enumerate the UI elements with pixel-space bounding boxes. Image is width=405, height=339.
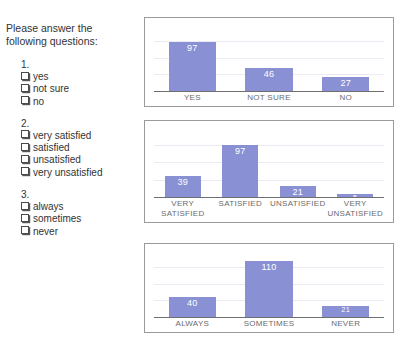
bar[interactable]: 21	[322, 306, 370, 317]
option-2-1[interactable]: very satisfied	[21, 130, 134, 142]
bar[interactable]: 27	[322, 77, 370, 91]
option-2-2[interactable]: satisfied	[21, 142, 134, 154]
empty-checkbox-icon[interactable]	[21, 72, 29, 80]
option-2-3[interactable]: unsatisfied	[21, 154, 134, 166]
bar-slot: 39	[154, 127, 212, 197]
question-number-1: 1.	[21, 59, 134, 71]
option-1-1[interactable]: yes	[21, 71, 134, 83]
empty-checkbox-icon[interactable]	[21, 167, 29, 175]
chart-bars: 3997215	[154, 127, 384, 197]
option-1-3[interactable]: no	[21, 96, 134, 108]
tick-label: SOMETIMES	[231, 319, 308, 329]
tick-label: VERY SATISFIED	[154, 199, 212, 218]
bar-slot: 46	[231, 24, 308, 91]
bar[interactable]: 110	[245, 261, 293, 317]
empty-checkbox-icon[interactable]	[21, 214, 29, 222]
option-1-2[interactable]: not sure	[21, 83, 134, 95]
bar-slot: 27	[307, 24, 384, 91]
bar-value-label: 21	[341, 306, 350, 314]
bar-value-label: 97	[187, 42, 197, 54]
option-label: not sure	[33, 83, 69, 95]
tick-label: SATISFIED	[212, 199, 270, 218]
option-label: no	[33, 96, 44, 108]
bar-slot: 5	[327, 127, 385, 197]
tick-label: VERY UNSATISFIED	[327, 199, 385, 218]
chart-bars: 974627	[154, 24, 384, 91]
option-label: yes	[33, 71, 49, 83]
option-label: always	[33, 201, 64, 213]
empty-checkbox-icon[interactable]	[21, 96, 29, 104]
bar[interactable]: 97	[169, 42, 217, 91]
tick-label: NO	[307, 93, 384, 103]
tick-label: ALWAYS	[154, 319, 231, 329]
bar-slot: 97	[154, 24, 231, 91]
bar-value-label: 27	[340, 77, 350, 89]
empty-checkbox-icon[interactable]	[21, 155, 29, 163]
empty-checkbox-icon[interactable]	[21, 143, 29, 151]
bar[interactable]: 40	[169, 297, 217, 317]
chart-axis-line	[154, 317, 384, 318]
tick-label: NOT SURE	[231, 93, 308, 103]
option-label: never	[33, 226, 58, 238]
tick-label: UNSATISFIED	[269, 199, 327, 218]
questionnaire-panel: Please answer the following questions: 1…	[6, 22, 134, 248]
chart-tick-labels: VERY SATISFIEDSATISFIEDUNSATISFIEDVERY U…	[154, 199, 384, 218]
question-number-3: 3.	[21, 189, 134, 201]
question-block-2: 2. very satisfied satisfied unsatisfied …	[6, 118, 134, 179]
option-label: unsatisfied	[33, 154, 81, 166]
option-3-2[interactable]: sometimes	[21, 213, 134, 225]
tick-label: YES	[154, 93, 231, 103]
chart-plot-3: 4011021ALWAYSSOMETIMESNEVER	[154, 250, 384, 328]
bar-value-label: 40	[187, 297, 197, 309]
bar-value-label: 21	[293, 186, 303, 198]
bar[interactable]: 21	[280, 186, 316, 197]
option-label: very satisfied	[33, 130, 91, 142]
bar-value-label: 97	[235, 145, 245, 157]
bar-slot: 97	[212, 127, 270, 197]
bar-slot: 21	[307, 250, 384, 317]
bar[interactable]: 46	[245, 68, 293, 91]
chart-panel-2: 3997215VERY SATISFIEDSATISFIEDUNSATISFIE…	[144, 120, 394, 223]
bar-slot: 21	[269, 127, 327, 197]
chart-axis-line	[154, 197, 384, 198]
bar[interactable]: 97	[222, 145, 258, 197]
chart-panel-1: 974627YESNOT SURENO	[144, 17, 394, 107]
option-3-3[interactable]: never	[21, 226, 134, 238]
question-block-1: 1. yes not sure no	[6, 59, 134, 108]
option-label: satisfied	[33, 142, 70, 154]
option-2-4[interactable]: very unsatisfied	[21, 167, 134, 179]
bar-slot: 40	[154, 250, 231, 317]
bar-value-label: 46	[264, 68, 274, 80]
bar-slot: 110	[231, 250, 308, 317]
option-label: very unsatisfied	[33, 167, 102, 179]
bar-value-label: 39	[178, 176, 188, 188]
questionnaire-intro: Please answer the following questions:	[6, 22, 134, 48]
option-3-1[interactable]: always	[21, 201, 134, 213]
chart-plot-2: 3997215VERY SATISFIEDSATISFIEDUNSATISFIE…	[154, 127, 384, 218]
empty-checkbox-icon[interactable]	[21, 84, 29, 92]
tick-label: NEVER	[307, 319, 384, 329]
chart-bars: 4011021	[154, 250, 384, 317]
question-number-2: 2.	[21, 118, 134, 130]
bar-value-label: 110	[262, 261, 277, 273]
chart-plot-1: 974627YESNOT SURENO	[154, 24, 384, 102]
question-block-3: 3. always sometimes never	[6, 189, 134, 238]
empty-checkbox-icon[interactable]	[21, 202, 29, 210]
chart-panel-3: 4011021ALWAYSSOMETIMESNEVER	[144, 243, 394, 333]
chart-tick-labels: ALWAYSSOMETIMESNEVER	[154, 319, 384, 329]
empty-checkbox-icon[interactable]	[21, 226, 29, 234]
chart-tick-labels: YESNOT SURENO	[154, 93, 384, 103]
empty-checkbox-icon[interactable]	[21, 130, 29, 138]
chart-axis-line	[154, 91, 384, 92]
option-label: sometimes	[33, 213, 81, 225]
bar[interactable]: 39	[165, 176, 201, 197]
